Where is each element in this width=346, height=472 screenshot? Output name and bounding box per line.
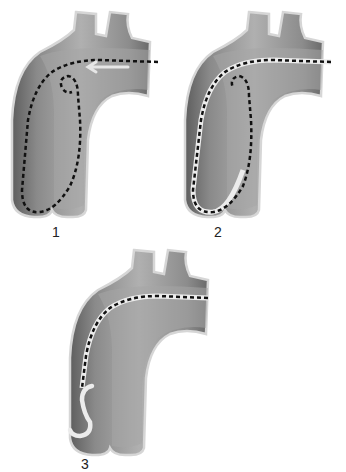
panel-3: 3 xyxy=(58,238,231,465)
aortic-arch-illustration xyxy=(173,0,346,230)
panel-label-3: 3 xyxy=(81,456,89,472)
arch-shading xyxy=(213,48,323,209)
aortic-arch-illustration xyxy=(58,238,231,465)
aortic-arch-illustration xyxy=(0,0,173,230)
panel-1: 1 xyxy=(0,0,173,230)
panel-2: 2 xyxy=(173,0,346,230)
arch-shading xyxy=(98,286,208,447)
